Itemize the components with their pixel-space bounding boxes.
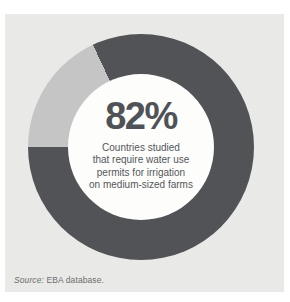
donut-chart: 82% Countries studied that require water…: [28, 34, 254, 260]
source-label: Source:: [14, 275, 44, 285]
donut-center: 82% Countries studied that require water…: [68, 74, 214, 220]
center-description-line: that require water use: [89, 154, 193, 167]
center-description-line: Countries studied: [89, 142, 193, 155]
center-description: Countries studied that require water use…: [89, 142, 193, 192]
source-note: Source: EBA database.: [14, 275, 104, 285]
source-text: EBA database.: [44, 275, 104, 285]
center-description-line: on medium-sized farms: [89, 179, 193, 192]
chart-panel: 82% Countries studied that require water…: [5, 14, 284, 292]
center-description-line: permits for irrigation: [89, 167, 193, 180]
percent-value: 82%: [105, 97, 177, 135]
